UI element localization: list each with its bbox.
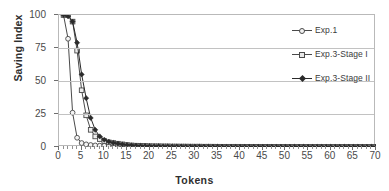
x-axis-minor-tick	[94, 146, 95, 149]
x-axis-minor-tick	[72, 146, 73, 149]
x-axis-minor-tick	[108, 146, 109, 149]
x-axis-minor-tick	[121, 146, 122, 149]
x-axis-tick-mark	[171, 146, 172, 150]
x-axis-minor-tick	[253, 146, 254, 149]
x-axis-minor-tick	[226, 146, 227, 149]
x-axis-minor-tick	[167, 146, 168, 149]
legend-item-label: Exp.3-Stage I	[315, 49, 368, 59]
x-axis-tick-label: 30	[182, 150, 206, 161]
x-axis-minor-tick	[348, 146, 349, 149]
x-axis-tick-label: 55	[295, 150, 319, 161]
x-axis-minor-tick	[275, 146, 276, 149]
x-axis-minor-tick	[176, 146, 177, 149]
x-axis-title: Tokens	[0, 174, 389, 186]
x-axis-minor-tick	[257, 146, 258, 149]
x-axis-minor-tick	[203, 146, 204, 149]
chart-container: Saving Index 0255075100 0510152025303540…	[0, 0, 389, 191]
x-axis-minor-tick	[185, 146, 186, 149]
x-axis-minor-tick	[117, 146, 118, 149]
x-axis-minor-tick	[312, 146, 313, 149]
x-axis-tick-label: 0	[46, 150, 70, 161]
x-axis-minor-tick	[339, 146, 340, 149]
x-axis-tick-mark	[126, 146, 127, 150]
legend-item-1[interactable]: Exp.1	[292, 18, 388, 42]
x-axis-tick-mark	[149, 146, 150, 150]
x-axis-tick-label: 10	[91, 150, 115, 161]
x-axis-minor-tick	[112, 146, 113, 149]
x-axis-minor-tick	[180, 146, 181, 149]
x-axis-tick-mark	[217, 146, 218, 150]
x-axis-tick-label: 65	[340, 150, 364, 161]
x-axis-minor-tick	[76, 146, 77, 149]
x-axis-minor-tick	[325, 146, 326, 149]
x-axis-minor-tick	[316, 146, 317, 149]
x-axis-minor-tick	[207, 146, 208, 149]
x-axis-tick-mark	[81, 146, 82, 150]
x-axis-minor-tick	[280, 146, 281, 149]
x-axis-tick-mark	[307, 146, 308, 150]
x-axis-minor-tick	[343, 146, 344, 149]
x-axis-tick-mark	[284, 146, 285, 150]
x-axis-minor-tick	[144, 146, 145, 149]
x-axis-minor-tick	[298, 146, 299, 149]
x-axis-tick-label: 25	[159, 150, 183, 161]
x-axis-minor-tick	[99, 146, 100, 149]
x-axis-tick-mark	[58, 146, 59, 150]
x-axis-minor-tick	[334, 146, 335, 149]
x-axis-tick-mark	[194, 146, 195, 150]
x-axis-minor-tick	[289, 146, 290, 149]
x-axis-tick-label: 35	[205, 150, 229, 161]
legend-item-label: Exp.1	[315, 25, 337, 35]
x-axis-tick-mark	[262, 146, 263, 150]
x-axis-minor-tick	[212, 146, 213, 149]
legend-marker-icon	[292, 26, 312, 35]
x-axis-tick-label: 5	[69, 150, 93, 161]
x-axis-tick-label: 50	[272, 150, 296, 161]
x-axis-minor-tick	[140, 146, 141, 149]
legend-item-2[interactable]: Exp.3-Stage I	[292, 42, 388, 66]
x-axis-minor-tick	[303, 146, 304, 149]
x-axis-tick-label: 70	[363, 150, 387, 161]
legend-marker-icon	[292, 50, 312, 59]
x-axis-minor-tick	[361, 146, 362, 149]
x-axis-minor-tick	[90, 146, 91, 149]
x-axis-minor-tick	[235, 146, 236, 149]
x-axis-minor-tick	[221, 146, 222, 149]
chart-legend: Exp.1Exp.3-Stage IExp.3-Stage II	[292, 18, 388, 90]
legend-item-label: Exp.3-Stage II	[315, 73, 370, 83]
x-axis-minor-tick	[244, 146, 245, 149]
x-axis-minor-tick	[198, 146, 199, 149]
x-axis-tick-mark	[239, 146, 240, 150]
x-axis-tick-mark	[103, 146, 104, 150]
x-axis-minor-tick	[248, 146, 249, 149]
x-axis-minor-tick	[189, 146, 190, 149]
x-axis-minor-tick	[271, 146, 272, 149]
x-axis-tick-label: 60	[318, 150, 342, 161]
x-axis-minor-tick	[158, 146, 159, 149]
x-axis-minor-tick	[63, 146, 64, 149]
x-axis-minor-tick	[162, 146, 163, 149]
legend-marker-icon	[292, 74, 312, 83]
x-axis-tick-mark	[352, 146, 353, 150]
x-axis-minor-tick	[230, 146, 231, 149]
legend-item-3[interactable]: Exp.3-Stage II	[292, 66, 388, 90]
x-axis-tick-mark	[375, 146, 376, 150]
x-axis-tick-label: 45	[250, 150, 274, 161]
x-axis-minor-tick	[321, 146, 322, 149]
x-axis-minor-tick	[370, 146, 371, 149]
x-axis-minor-tick	[366, 146, 367, 149]
x-axis-tick-label: 20	[137, 150, 161, 161]
x-axis-tick-mark	[330, 146, 331, 150]
x-axis-minor-tick	[67, 146, 68, 149]
x-axis-minor-tick	[266, 146, 267, 149]
x-axis-minor-tick	[85, 146, 86, 149]
x-axis-minor-tick	[135, 146, 136, 149]
x-axis-minor-tick	[293, 146, 294, 149]
x-axis-minor-tick	[357, 146, 358, 149]
x-axis-tick-label: 15	[114, 150, 138, 161]
x-axis-minor-tick	[153, 146, 154, 149]
x-axis-tick-label: 40	[227, 150, 251, 161]
x-axis-minor-tick	[130, 146, 131, 149]
